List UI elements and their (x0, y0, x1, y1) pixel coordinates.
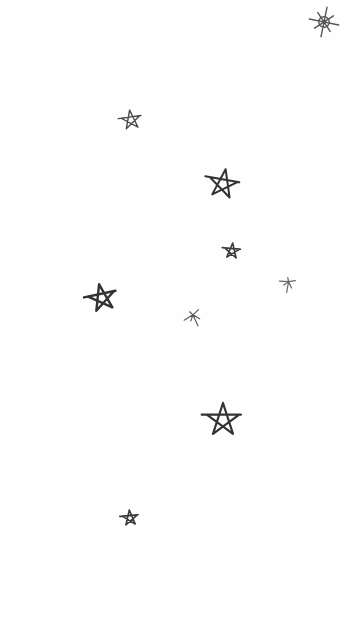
star-1-icon (121, 110, 141, 130)
star-2-icon (208, 169, 238, 199)
canvas: { "canvas": { "background": "#fefefe", "… (0, 0, 358, 623)
star-3-icon (224, 243, 240, 259)
star-7-icon (206, 403, 240, 437)
star-8-icon (122, 510, 138, 526)
star-6-icon (183, 308, 203, 328)
star-sparkle-top-right-icon (309, 7, 339, 37)
star-5-icon (88, 284, 116, 312)
star-4-icon (278, 275, 296, 293)
